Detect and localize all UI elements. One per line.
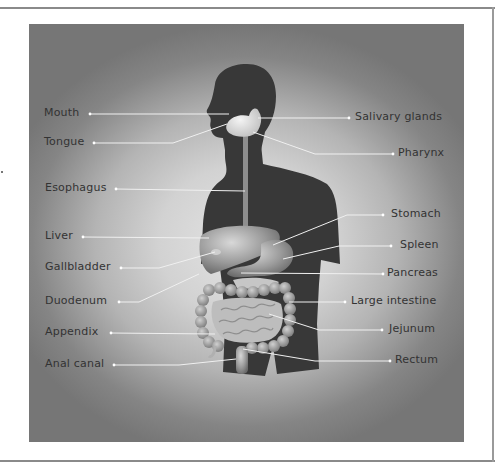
- label-tongue: Tongue: [44, 135, 84, 148]
- label-rectum: Rectum: [395, 353, 438, 366]
- label-appendix: Appendix: [45, 325, 98, 338]
- label-esophagus: Esophagus: [45, 181, 107, 194]
- label-jejunum: Jejunum: [389, 322, 435, 335]
- frame-top-border: [0, 7, 495, 9]
- frame-bottom-border: [0, 460, 495, 462]
- label-large-intestine: Large intestine: [351, 294, 436, 307]
- rectum-organ: [236, 346, 248, 374]
- margin-dot: [1, 171, 3, 173]
- label-stomach: Stomach: [391, 207, 441, 220]
- label-anal-canal: Anal canal: [45, 357, 104, 370]
- label-pharynx: Pharynx: [398, 146, 444, 159]
- label-liver: Liver: [45, 229, 73, 242]
- body-silhouette-illustration: [29, 24, 464, 442]
- label-gallbladder: Gallbladder: [45, 260, 111, 273]
- gallbladder-organ: [211, 249, 221, 255]
- label-duodenum: Duodenum: [45, 294, 107, 307]
- frame-right-border: [492, 7, 494, 462]
- label-mouth: Mouth: [44, 106, 79, 119]
- label-salivary-glands: Salivary glands: [355, 110, 442, 123]
- label-pancreas: Pancreas: [387, 266, 438, 279]
- digestive-system-figure: Mouth Tongue Esophagus Liver Gallbladder…: [29, 24, 464, 442]
- label-spleen: Spleen: [400, 238, 439, 251]
